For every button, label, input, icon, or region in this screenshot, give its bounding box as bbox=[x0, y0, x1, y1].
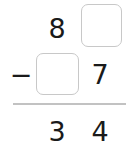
subtraction-worksheet: 8 − 7 3 4 bbox=[0, 0, 132, 151]
result-tens-digit: 3 bbox=[44, 118, 70, 145]
result-ones-digit: 4 bbox=[87, 118, 113, 145]
subtrahend-ones-digit: 7 bbox=[87, 61, 113, 88]
minuend-ones-answer-box[interactable] bbox=[81, 4, 122, 47]
minus-operator-sign: − bbox=[8, 61, 34, 88]
subtrahend-tens-answer-box[interactable] bbox=[36, 53, 79, 95]
minuend-tens-digit: 8 bbox=[44, 15, 70, 42]
result-separator-line bbox=[13, 103, 126, 105]
